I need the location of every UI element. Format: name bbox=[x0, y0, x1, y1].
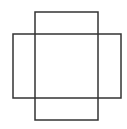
horizontal-rectangle bbox=[13, 34, 121, 98]
vertical-rectangle bbox=[35, 12, 98, 120]
cross-diagram bbox=[0, 0, 127, 129]
